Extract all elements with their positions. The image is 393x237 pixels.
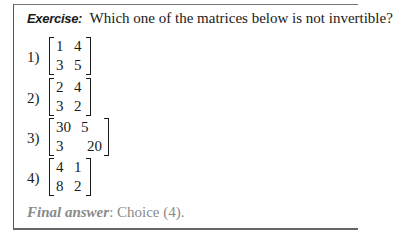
right-bracket <box>104 118 109 156</box>
matrix-cell: 5 <box>81 118 102 137</box>
matrix-cell: 1 <box>74 158 84 177</box>
final-answer-label: Final answer <box>27 204 109 220</box>
matrix: 1 4 3 5 <box>49 37 91 75</box>
matrix-cell: 2 <box>74 177 84 196</box>
choice-number: 1) <box>27 49 40 66</box>
matrix: 2 4 3 2 <box>49 78 91 116</box>
matrix-cell: 3 <box>56 56 74 75</box>
matrix-cell: 30 <box>56 118 81 137</box>
matrix-cell: 2 <box>56 78 74 97</box>
final-answer: Final answer: Choice (4). <box>27 204 185 221</box>
matrix-cell: 20 <box>81 137 102 156</box>
matrix-cell: 4 <box>74 78 84 97</box>
right-bracket <box>86 37 91 75</box>
exercise-question: Exercise: Which one of the matrices belo… <box>27 10 393 27</box>
matrix: 30 5 3 20 <box>49 118 109 156</box>
matrix-cell: 1 <box>56 37 74 56</box>
matrix-cell: 4 <box>56 158 74 177</box>
right-bracket <box>86 158 91 196</box>
choice-number: 3) <box>27 130 40 147</box>
matrix-cell: 4 <box>74 37 84 56</box>
matrix-cell: 3 <box>56 137 81 156</box>
right-bracket <box>86 78 91 116</box>
choice-number: 4) <box>27 170 40 187</box>
matrix-cell: 5 <box>74 56 84 75</box>
final-answer-text: : Choice (4). <box>109 204 184 220</box>
matrix-cell: 3 <box>56 97 74 116</box>
choice-number: 2) <box>27 90 40 107</box>
matrix-cell: 8 <box>56 177 74 196</box>
exercise-label: Exercise: <box>27 11 82 26</box>
question-text: Which one of the matrices below is not i… <box>90 10 393 26</box>
matrix: 4 1 8 2 <box>49 158 91 196</box>
matrix-cell: 2 <box>74 97 84 116</box>
